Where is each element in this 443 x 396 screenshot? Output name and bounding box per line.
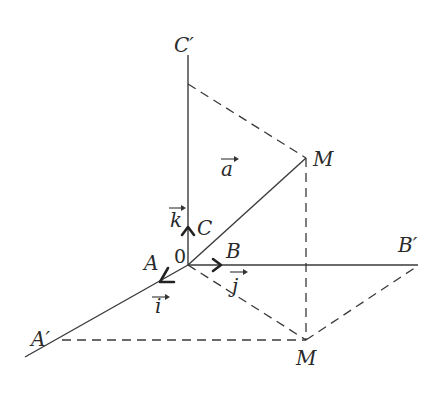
a-vector-arrowhead-icon [234,156,239,162]
label-c: C [197,216,212,240]
vector-diagram: C′ M M B′ B C 0 A A′ a k j i [0,0,443,396]
i-arrowhead-icon [160,268,174,282]
label-a-vector: a [221,157,233,181]
dashed-cprime-m [188,84,306,158]
k-vector-arrowhead-icon [181,205,186,211]
diagram-canvas: C′ M M B′ B C 0 A A′ a k j i [0,0,443,396]
label-c-prime: C′ [174,33,194,57]
label-a: A [142,251,158,275]
vector-om [188,158,306,265]
label-k-vector: k [170,208,182,232]
dashed-mprime-bprime [306,267,416,340]
label-m-top: M [312,147,334,171]
dashed-o-mprime [188,265,306,340]
label-i-vector: i [155,294,161,318]
label-m-bottom: M [295,346,317,370]
label-origin: 0 [174,245,186,267]
label-b: B [225,239,241,263]
i-vector-arrowhead-icon [165,294,170,300]
label-b-prime: B′ [397,233,418,257]
label-a-prime: A′ [29,327,50,351]
j-vector-arrowhead-icon [243,269,248,275]
label-j-vector: j [228,274,238,298]
